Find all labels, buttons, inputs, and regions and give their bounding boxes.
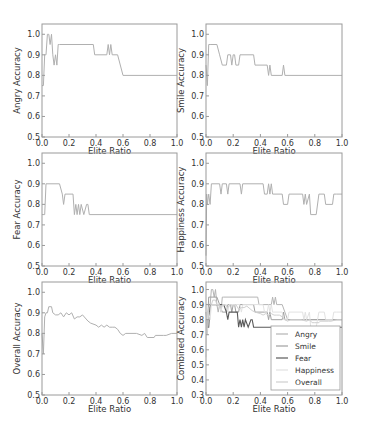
y-tick-label: 0.6 (191, 112, 204, 121)
legend-label-fear: Fear (295, 354, 312, 363)
subplot-smile-accuracy: 0.00.20.40.60.81.00.50.60.70.80.91.0Elit… (176, 24, 348, 156)
y-tick-label: 0.9 (27, 51, 40, 60)
x-tick-label: 1.0 (171, 397, 184, 406)
y-tick-label: 0.6 (27, 112, 40, 121)
x-tick-label: 1.0 (171, 268, 184, 277)
y-tick-label: 0.5 (27, 262, 40, 271)
y-tick-label: 0.7 (27, 350, 40, 359)
y-tick-label: 0.9 (27, 180, 40, 189)
y-tick-label: 0.6 (27, 241, 40, 250)
axes-frame (42, 282, 177, 395)
y-tick-label: 1.0 (191, 30, 204, 39)
y-axis-label: Combined Accuracy (176, 296, 186, 381)
y-tick-label: 0.7 (191, 331, 204, 340)
legend-label-overall: Overall (295, 378, 322, 387)
x-tick-label: 0.2 (63, 139, 76, 148)
x-axis-label: Elite Ratio (252, 404, 295, 414)
x-tick-label: 0.2 (63, 268, 76, 277)
x-tick-label: 0.8 (144, 139, 157, 148)
y-tick-label: 0.4 (191, 376, 204, 385)
x-tick-label: 1.0 (336, 268, 349, 277)
y-tick-label: 0.8 (191, 71, 204, 80)
y-tick-label: 0.7 (27, 92, 40, 101)
y-tick-label: 0.3 (191, 391, 204, 400)
y-axis-label: Smile Accuracy (176, 48, 186, 113)
y-tick-label: 0.8 (27, 200, 40, 209)
x-axis-label: Elite Ratio (252, 275, 295, 285)
y-tick-label: 0.8 (191, 200, 204, 209)
y-tick-label: 0.7 (191, 221, 204, 230)
y-axis-label: Angry Accuracy (12, 47, 22, 114)
x-tick-label: 0.8 (144, 397, 157, 406)
x-tick-label: 0.2 (227, 268, 240, 277)
y-axis-label: Fear Accuracy (12, 180, 22, 240)
x-axis-label: Elite Ratio (88, 404, 131, 414)
line-series-smile (206, 45, 342, 86)
x-axis-label: Elite Ratio (252, 146, 295, 156)
x-tick-label: 0.8 (308, 397, 321, 406)
x-tick-label: 0.8 (308, 268, 321, 277)
subplot-angry-accuracy: 0.00.20.40.60.81.00.50.60.70.80.91.0Elit… (12, 24, 183, 156)
legend-label-angry: Angry (295, 330, 318, 339)
line-series-overall (42, 307, 177, 354)
line-series-angry (42, 34, 177, 85)
y-axis-label: Overall Accuracy (12, 303, 22, 375)
x-tick-label: 0.2 (227, 139, 240, 148)
y-tick-label: 0.5 (191, 133, 204, 142)
x-tick-label: 1.0 (171, 139, 184, 148)
y-tick-label: 0.6 (27, 370, 40, 379)
x-tick-label: 0.2 (63, 397, 76, 406)
x-tick-label: 0.2 (227, 397, 240, 406)
axes-frame (206, 153, 342, 266)
line-series-fear (206, 305, 342, 328)
y-tick-label: 0.9 (191, 301, 204, 310)
legend-label-smile: Smile (295, 342, 316, 351)
x-tick-label: 1.0 (336, 139, 349, 148)
subplot-happiness-accuracy: 0.00.20.40.60.81.00.50.60.70.80.91.0Elit… (176, 153, 348, 285)
y-tick-label: 0.8 (27, 329, 40, 338)
subplot-combined-accuracy: 0.00.20.40.60.81.00.30.40.50.60.70.80.91… (176, 282, 348, 414)
y-tick-label: 0.8 (191, 316, 204, 325)
x-tick-label: 1.0 (336, 397, 349, 406)
line-series-happiness (206, 184, 342, 256)
figure: 0.00.20.40.60.81.00.50.60.70.80.91.0Elit… (0, 0, 367, 425)
y-tick-label: 0.6 (191, 346, 204, 355)
line-series-fear (42, 184, 177, 215)
y-tick-label: 1.0 (191, 286, 204, 295)
y-tick-label: 0.5 (27, 391, 40, 400)
x-tick-label: 0.8 (144, 268, 157, 277)
y-tick-label: 0.9 (27, 309, 40, 318)
y-tick-label: 1.0 (27, 288, 40, 297)
y-tick-label: 0.5 (191, 361, 204, 370)
y-tick-label: 0.9 (191, 180, 204, 189)
axes-frame (42, 153, 177, 266)
y-tick-label: 0.6 (191, 241, 204, 250)
x-axis-label: Elite Ratio (88, 275, 131, 285)
x-tick-label: 0.8 (308, 139, 321, 148)
y-tick-label: 0.8 (27, 71, 40, 80)
y-tick-label: 0.5 (191, 262, 204, 271)
x-axis-label: Elite Ratio (88, 146, 131, 156)
subplot-overall-accuracy: 0.00.20.40.60.81.00.50.60.70.80.91.0Elit… (12, 282, 183, 414)
y-tick-label: 1.0 (191, 159, 204, 168)
y-tick-label: 0.7 (27, 221, 40, 230)
subplot-fear-accuracy: 0.00.20.40.60.81.00.50.60.70.80.91.0Elit… (12, 153, 183, 285)
y-tick-label: 1.0 (27, 30, 40, 39)
y-tick-label: 1.0 (27, 159, 40, 168)
legend-label-happiness: Happiness (295, 366, 334, 375)
axes-frame (42, 24, 177, 137)
y-tick-label: 0.7 (191, 92, 204, 101)
y-tick-label: 0.5 (27, 133, 40, 142)
y-axis-label: Happiness Accuracy (176, 167, 186, 253)
axes-frame (206, 24, 342, 137)
legend: AngrySmileFearHappinessOverall (271, 326, 340, 390)
y-tick-label: 0.9 (191, 51, 204, 60)
